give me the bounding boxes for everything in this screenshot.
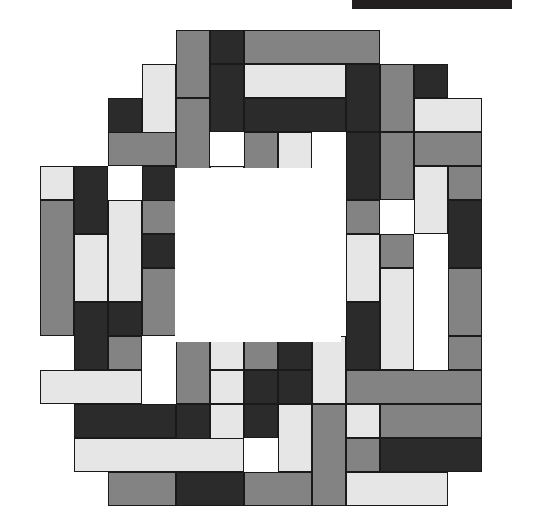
tile-light — [380, 268, 414, 370]
tile-dark — [244, 370, 278, 404]
tile-dark — [448, 200, 482, 268]
tile-light — [74, 438, 244, 472]
tile-light — [278, 404, 312, 472]
tile-light — [108, 200, 142, 302]
tile-dark — [380, 438, 482, 472]
tile-medium — [380, 64, 414, 132]
tile-dark — [346, 302, 380, 370]
pattern-figure — [0, 0, 536, 532]
tile-light — [40, 166, 74, 200]
tile-dark — [108, 302, 142, 336]
tile-medium — [244, 30, 380, 64]
tile-light — [210, 370, 244, 404]
tile-medium — [346, 438, 380, 472]
tile-light — [346, 234, 380, 302]
tile-light — [414, 98, 482, 132]
tile-light — [74, 234, 108, 302]
tile-medium — [108, 132, 176, 166]
tile-medium — [448, 268, 482, 336]
tile-medium — [108, 336, 142, 370]
tile-medium — [108, 472, 176, 506]
tile-medium — [176, 30, 210, 98]
tile-dark — [346, 64, 380, 132]
tile-medium — [176, 336, 210, 404]
tile-dark — [346, 132, 380, 200]
tile-dark — [414, 64, 448, 98]
tile-medium — [346, 370, 482, 404]
tile-dark — [210, 64, 244, 132]
tile-medium — [312, 404, 346, 506]
tile-light — [414, 166, 448, 234]
tile-medium — [380, 234, 414, 268]
tile-light — [346, 472, 448, 506]
tile-light — [312, 336, 346, 404]
tile-dark — [142, 234, 176, 268]
tile-light — [40, 370, 142, 404]
tile-medium — [380, 132, 414, 200]
tile-medium — [142, 268, 176, 336]
tile-dark — [74, 302, 108, 370]
center-hole — [175, 168, 341, 342]
tile-dark — [278, 370, 312, 404]
tile-dark — [74, 166, 108, 234]
tile-dark — [244, 404, 278, 438]
tile-medium — [40, 200, 74, 336]
tile-pattern-canvas — [0, 0, 536, 532]
tile-medium — [414, 132, 482, 166]
tile-medium — [346, 200, 380, 234]
tile-medium — [244, 472, 312, 506]
tile-medium — [448, 166, 482, 200]
tile-dark — [244, 98, 346, 132]
tile-medium — [142, 200, 176, 234]
tile-light — [346, 404, 380, 438]
tile-medium — [380, 404, 482, 438]
tile-dark — [74, 404, 176, 438]
tile-light — [244, 64, 346, 98]
tile-dark — [210, 30, 244, 64]
tile-medium — [448, 336, 482, 370]
tile-dark — [176, 472, 244, 506]
